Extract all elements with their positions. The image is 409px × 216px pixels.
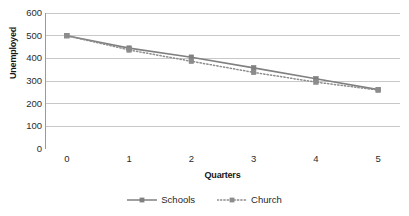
legend-label: Church xyxy=(251,194,282,205)
chart-title xyxy=(0,0,409,3)
line-chart: Unemployed 6005004003002001000 012345 Qu… xyxy=(0,0,409,216)
y-axis-tick-label: 500 xyxy=(14,31,42,41)
y-axis-tick-label: 600 xyxy=(14,8,42,18)
x-axis-tick-label: 5 xyxy=(363,153,393,164)
plot-area xyxy=(45,13,400,149)
x-axis-tick-label: 4 xyxy=(301,153,331,164)
y-axis-tick-label: 200 xyxy=(14,99,42,109)
y-axis-tick-labels: 6005004003002001000 xyxy=(14,8,42,150)
y-axis-tick-label: 0 xyxy=(14,144,42,154)
x-axis-tick-label: 2 xyxy=(176,153,206,164)
legend-swatch-schools-icon xyxy=(127,195,157,205)
x-axis-tick-label: 1 xyxy=(114,153,144,164)
y-axis-tick-label: 400 xyxy=(14,53,42,63)
legend-label: Schools xyxy=(161,194,195,205)
x-axis-tick-label: 0 xyxy=(52,153,82,164)
chart-legend: SchoolsChurch xyxy=(0,194,409,205)
legend-swatch-church-icon xyxy=(217,195,247,205)
x-axis-tick-label: 3 xyxy=(239,153,269,164)
plot-svg xyxy=(45,13,400,149)
x-axis-tick-labels: 012345 xyxy=(45,153,400,167)
y-axis-tick-label: 300 xyxy=(14,76,42,86)
x-axis-title: Quarters xyxy=(45,170,400,180)
legend-item-church[interactable]: Church xyxy=(217,194,282,205)
legend-item-schools[interactable]: Schools xyxy=(127,194,195,205)
y-axis-tick-label: 100 xyxy=(14,121,42,131)
